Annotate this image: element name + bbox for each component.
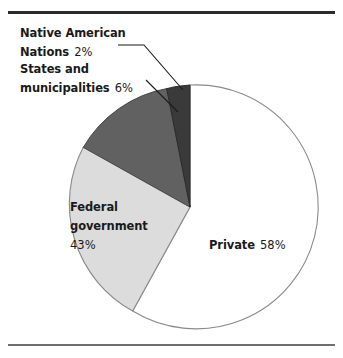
bottom-rule [8, 344, 335, 346]
callout-native-american-nations-line1: Native American [20, 26, 126, 40]
callout-native-american-nations-line2: Nations [20, 45, 69, 59]
callout-states-and-municipalities-line2: municipalities [20, 81, 110, 95]
callout-states-and-municipalities-percent: 6% [115, 81, 133, 95]
slice-label-federal-government-percent: 43% [70, 238, 96, 252]
slice-label-federal-government-line1: Federal [70, 200, 118, 214]
source-note [9, 350, 339, 358]
callout-states-and-municipalities-line1: States and [20, 62, 89, 76]
callout-states-and-municipalities: States and municipalities 6% [20, 59, 180, 97]
slice-label-federal-government-line2: government [70, 219, 148, 233]
callout-native-american-nations: Native American Nations 2% [20, 23, 170, 61]
slice-label-private-percent: 58% [260, 238, 286, 252]
slice-label-private: Private 58% [209, 234, 319, 253]
pie-chart-figure: Native American Nations 2% States and mu… [0, 0, 343, 358]
callout-native-american-nations-percent: 2% [74, 45, 92, 59]
slice-label-federal-government: Federal government 43% [70, 196, 166, 254]
slice-label-private-line1: Private [209, 238, 255, 252]
